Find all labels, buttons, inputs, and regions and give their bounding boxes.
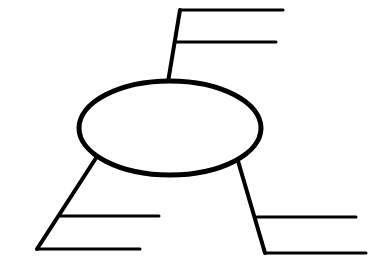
diagram-canvas <box>0 0 388 276</box>
branch-bottom-right <box>238 161 366 253</box>
branch-stem <box>168 10 180 82</box>
branch-top <box>168 10 283 82</box>
branch-stem <box>238 161 265 253</box>
branch-stem <box>37 158 96 249</box>
mind-map-diagram <box>0 0 388 276</box>
center-node-ellipse <box>79 81 261 175</box>
